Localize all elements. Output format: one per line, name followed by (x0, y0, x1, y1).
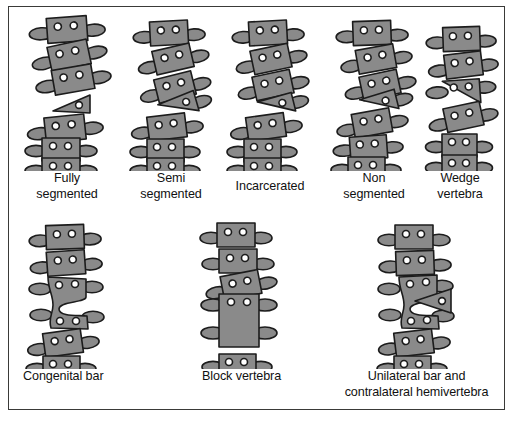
spine-diagram-wedge-vertebra: Wedge vertebra (417, 11, 503, 211)
spine-diagram-incarcerated: Incarcerated (216, 11, 324, 211)
figure-panel: Fully segmented (8, 6, 505, 410)
non-segmented-illustration (324, 11, 424, 171)
block-vertebra-illustration (169, 219, 319, 369)
incarcerated-illustration (216, 11, 324, 171)
spine-diagram-unilateral-bar: Unilateral bar and contralateral hemiver… (329, 219, 504, 404)
block-vertebra-mass (201, 294, 277, 347)
congenital-bar-mass (29, 277, 104, 329)
spine-diagram-congenital-bar: Congenital bar (13, 219, 163, 404)
fully-segmented-illustration (13, 11, 121, 171)
wedge-vertebra-illustration (417, 11, 503, 171)
spine-label-congenital-bar: Congenital bar (13, 369, 173, 385)
spine-label-non-segmented: Non segmented (324, 171, 424, 202)
spine-label-block-vertebra: Block vertebra (169, 369, 352, 385)
spine-label-semi-segmented: Semi segmented (121, 171, 221, 202)
spine-label-fully-segmented: Fully segmented (13, 171, 121, 202)
wedge-shaped-body (425, 78, 497, 107)
hemivertebra-wedge (53, 95, 90, 113)
spine-label-wedge-vertebra: Wedge vertebra (417, 171, 503, 202)
spine-diagram-non-segmented: Non segmented (324, 11, 424, 211)
semi-segmented-illustration (121, 11, 221, 171)
spine-label-incarcerated: Incarcerated (216, 179, 324, 195)
spine-diagram-semi-segmented: Semi segmented (121, 11, 221, 211)
spine-label-unilateral-bar: Unilateral bar and contralateral hemiver… (329, 369, 504, 400)
spine-diagram-fully-segmented: Fully segmented (13, 11, 121, 211)
congenital-bar-illustration (13, 219, 163, 369)
unilateral-bar-illustration (329, 219, 504, 369)
spine-diagram-block-vertebra: Block vertebra (169, 219, 319, 404)
